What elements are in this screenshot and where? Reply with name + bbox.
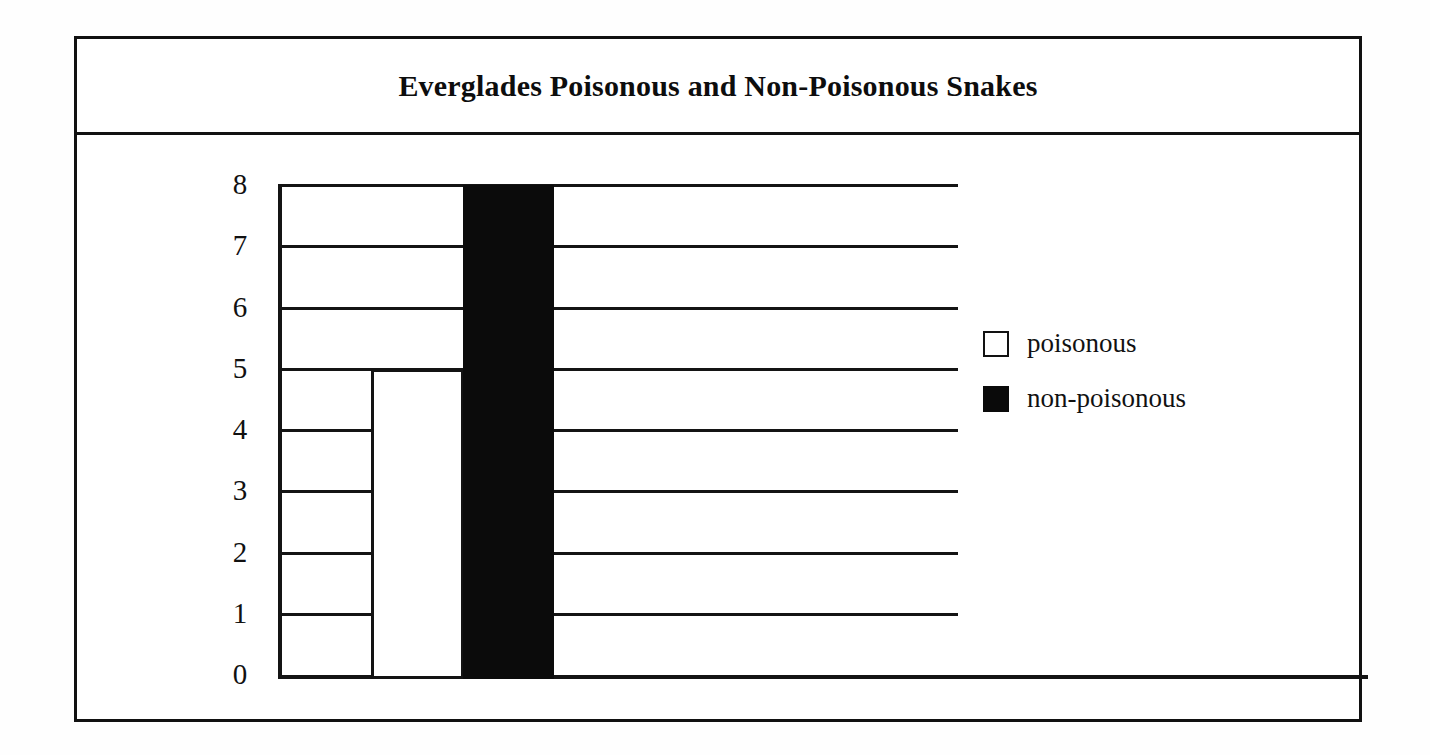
y-axis-line	[278, 184, 282, 678]
page-title: Everglades Poisonous and Non-Poisonous S…	[398, 69, 1037, 103]
y-axis-tick-label-0: 0	[210, 660, 270, 689]
legend-item-non-poisonous: non-poisonous	[983, 385, 1186, 412]
legend-item-poisonous: poisonous	[983, 330, 1137, 357]
chart-title-band: Everglades Poisonous and Non-Poisonous S…	[77, 39, 1359, 135]
gridline-6	[278, 307, 958, 310]
legend-label: poisonous	[1027, 330, 1137, 357]
y-axis-tick-label-6: 6	[210, 293, 270, 322]
y-axis: 876543210	[208, 135, 270, 719]
bar-non-poisonous	[463, 185, 554, 679]
y-axis-tick-label-3: 3	[210, 476, 270, 505]
y-axis-tick-label-2: 2	[210, 538, 270, 567]
legend-swatch-white-icon	[983, 331, 1009, 357]
chart-frame: Everglades Poisonous and Non-Poisonous S…	[74, 36, 1362, 722]
y-axis-tick-label-1: 1	[210, 599, 270, 628]
gridline-8	[278, 184, 958, 187]
legend-swatch-black-icon	[983, 386, 1009, 412]
legend-label: non-poisonous	[1027, 385, 1186, 412]
y-axis-tick-label-7: 7	[210, 231, 270, 260]
y-axis-tick-label-4: 4	[210, 415, 270, 444]
bar-poisonous	[371, 369, 464, 679]
gridline-7	[278, 245, 958, 248]
y-axis-tick-label-8: 8	[210, 170, 270, 199]
plot-area: 876543210 poisonousnon-poisonous	[77, 135, 1359, 719]
y-axis-tick-label-5: 5	[210, 354, 270, 383]
